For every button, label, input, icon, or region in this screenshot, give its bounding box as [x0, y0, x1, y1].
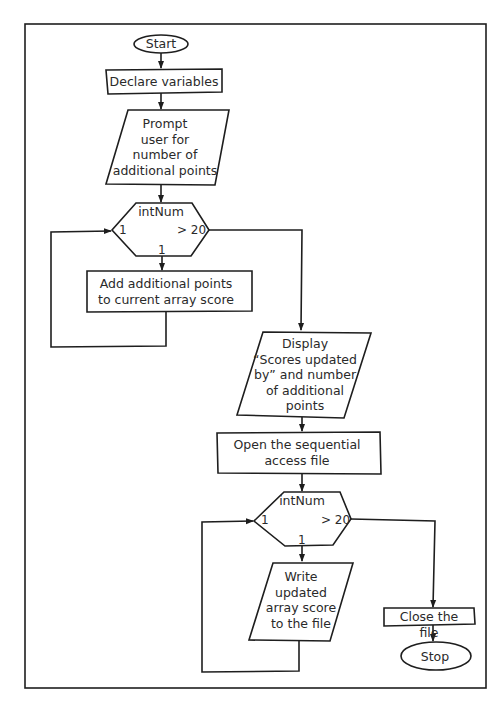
declare-label: Declare variables: [110, 74, 219, 90]
flowchart-canvas: [0, 0, 503, 701]
loop1-end-value: > 20: [177, 223, 206, 237]
edge-loop2-close: [351, 519, 435, 607]
loop1-start-value: 1: [119, 223, 127, 237]
loop1-step-value: 1: [158, 243, 166, 257]
loop2-start-value: 1: [261, 513, 269, 527]
open-label: Open the sequential access file: [233, 437, 360, 468]
loop2-step-value: 1: [298, 533, 306, 547]
close-label: Close the file: [392, 609, 466, 640]
display-label: Display “Scores updated by” and number o…: [253, 336, 357, 414]
prompt-label: Prompt user for number of additional poi…: [113, 116, 217, 178]
loop2-end-value: > 20: [321, 513, 350, 527]
start-label: Start: [146, 36, 177, 52]
loop1-variable-label: intNum: [138, 204, 184, 220]
loop2-variable-label: intNum: [279, 493, 325, 509]
add-label: Add additional points to current array s…: [98, 276, 234, 307]
stop-label: Stop: [421, 649, 449, 665]
write-label: Write updated array score to the file: [266, 569, 336, 631]
